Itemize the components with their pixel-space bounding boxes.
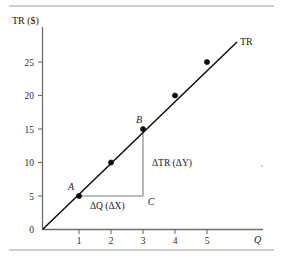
- delta-x-label: ΔQ (ΔX): [90, 201, 125, 212]
- x-tick-label-3: 3: [141, 236, 146, 246]
- x-tick-label-1: 1: [77, 236, 82, 246]
- y-tick-label-0: 0: [29, 225, 34, 235]
- print-speck-icon: [261, 165, 263, 167]
- x-tick-label-2: 2: [109, 236, 114, 246]
- data-point-q2: [108, 160, 113, 165]
- y-tick-label-15: 15: [25, 125, 35, 135]
- data-point-q3: [140, 126, 145, 131]
- y-tick-label-20: 20: [25, 91, 35, 101]
- data-point-q5: [204, 59, 209, 64]
- figure-root: 0 5 10 15 20 25 1 2 3 4 5 TR ($) Q A B C…: [0, 0, 283, 258]
- point-b-label: B: [136, 114, 142, 125]
- point-a-label: A: [67, 181, 75, 192]
- y-tick-label-5: 5: [29, 192, 34, 202]
- y-tick-label-25: 25: [25, 58, 35, 68]
- x-tick-label-4: 4: [173, 236, 178, 246]
- total-revenue-chart: 0 5 10 15 20 25 1 2 3 4 5 TR ($) Q A B C…: [0, 0, 283, 258]
- tr-curve-label: TR: [240, 36, 253, 47]
- x-axis-title: Q: [254, 234, 262, 245]
- delta-y-label: ΔTR (ΔY): [152, 158, 192, 169]
- y-axis-title: TR ($): [12, 15, 39, 27]
- data-point-q1: [76, 193, 81, 198]
- data-point-q4: [172, 93, 177, 98]
- y-tick-label-10: 10: [25, 158, 35, 168]
- point-c-label: C: [148, 196, 155, 207]
- tr-series-line: [43, 42, 238, 230]
- x-tick-label-5: 5: [205, 236, 210, 246]
